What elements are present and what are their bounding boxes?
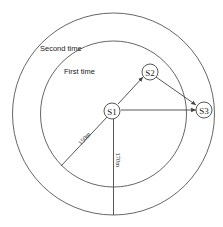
inner-ring-label: First time	[64, 67, 95, 76]
node-s3-label: S3	[199, 106, 209, 116]
edge-s1-s2	[118, 77, 143, 104]
node-s3: S3	[196, 102, 212, 118]
outer-radius-label: 170m	[115, 153, 122, 168]
inner-radius-label: 150m	[77, 130, 92, 146]
outer-ring-label: Second time	[40, 44, 82, 53]
node-s2: S2	[142, 64, 158, 80]
edge-s2-s3	[156, 77, 196, 105]
diagram-canvas: Second time First time 150m 170m S1 S2 S…	[0, 0, 223, 227]
node-s2-label: S2	[145, 68, 155, 78]
node-s1-label: S1	[107, 107, 117, 117]
node-s1: S1	[104, 103, 120, 119]
